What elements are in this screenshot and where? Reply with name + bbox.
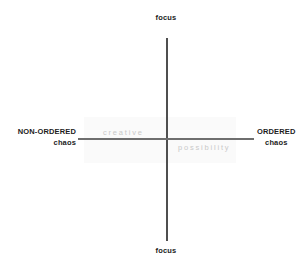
quadrant-word-creative: creative: [103, 128, 144, 137]
quadrant-diagram: focus focus NON-ORDERED chaos ORDERED ch…: [0, 0, 308, 267]
axis-label-right: ORDERED chaos: [257, 126, 296, 148]
axis-label-bottom: focus: [156, 245, 177, 256]
axis-label-right-secondary: chaos: [257, 137, 296, 148]
axis-label-right-primary: ORDERED: [257, 127, 296, 136]
axis-label-top: focus: [156, 12, 177, 23]
axis-label-top-text: focus: [156, 13, 177, 22]
axis-label-left-secondary: chaos: [18, 137, 76, 148]
quadrant-word-possibility: possibility: [178, 143, 230, 152]
axis-label-left-primary: NON-ORDERED: [18, 127, 76, 136]
center-highlight-wash: [84, 117, 236, 163]
axis-label-bottom-text: focus: [156, 246, 177, 255]
horizontal-axis-line: [78, 138, 254, 140]
axis-label-left: NON-ORDERED chaos: [18, 126, 76, 148]
